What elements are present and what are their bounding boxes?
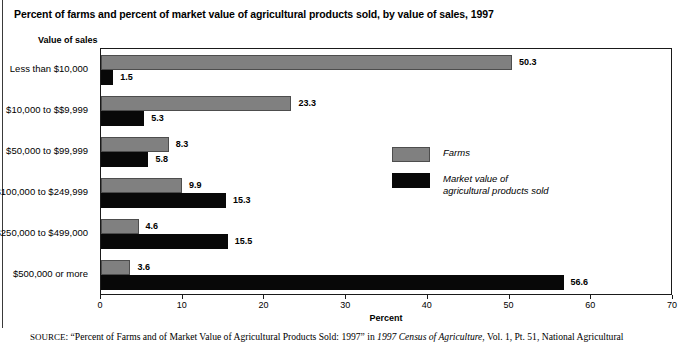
source-quoted-title: “Percent of Farms and of Market Value of… — [71, 331, 365, 342]
legend-entry-market-value: Market value of agricultural products so… — [392, 173, 549, 196]
bar-farms — [101, 55, 512, 70]
chart-title: Percent of farms and percent of market v… — [14, 8, 494, 20]
source-note: SOURCE: “Percent of Farms and of Market … — [30, 331, 680, 343]
source-prefix: SOURCE — [30, 332, 66, 342]
y-axis-category-label: $50,000 to $99,999 — [0, 145, 95, 156]
bar-market-value — [101, 70, 113, 85]
source-publication: 1997 Census of Agriculture — [377, 331, 482, 342]
bar-value-market-value: 15.3 — [233, 193, 251, 208]
y-axis-category-label: $100,000 to $249,999 — [0, 186, 95, 197]
plot-frame: 50.31.523.35.38.35.89.915.34.615.53.656.… — [100, 48, 672, 295]
bar-value-farms: 23.3 — [298, 96, 316, 111]
x-axis-tick-label: 20 — [258, 300, 268, 310]
bar-value-market-value: 5.8 — [155, 152, 168, 167]
x-axis-tick-mark — [427, 295, 428, 299]
x-axis-tick-mark — [263, 295, 264, 299]
chart-page: Percent of farms and percent of market v… — [0, 0, 688, 350]
y-axis-category-labels: Less than $10,000$10,000 to $$9,999$50,0… — [0, 48, 95, 295]
legend-entry-farms: Farms — [392, 147, 470, 162]
bar-market-value — [101, 193, 226, 208]
x-axis-title: Percent — [100, 313, 672, 323]
x-axis-tick-mark — [590, 295, 591, 299]
bar-farms — [101, 260, 130, 275]
bar-value-market-value: 56.6 — [571, 275, 589, 290]
bar-value-farms: 8.3 — [176, 137, 189, 152]
y-axis-category-label: $500,000 or more — [0, 268, 95, 279]
legend-label-farms: Farms — [443, 147, 470, 159]
y-axis-category-label: Less than $10,000 — [0, 63, 95, 74]
legend-label-market-value: Market value of agricultural products so… — [443, 173, 549, 196]
bar-market-value — [101, 152, 148, 167]
x-axis-tick-mark — [345, 295, 346, 299]
x-axis-tick-mark — [509, 295, 510, 299]
bar-market-value — [101, 234, 228, 249]
bar-farms — [101, 178, 182, 193]
source-tail: , Vol. 1, Pt. 51, National Agricultural — [482, 331, 623, 342]
x-axis-tick-mark — [182, 295, 183, 299]
bar-value-farms: 9.9 — [189, 178, 202, 193]
plot-area: 50.31.523.35.38.35.89.915.34.615.53.656.… — [101, 49, 671, 294]
x-axis-tick-label: 70 — [667, 300, 677, 310]
x-axis-tick-label: 30 — [340, 300, 350, 310]
bar-value-farms: 4.6 — [146, 219, 159, 234]
x-axis-tick-mark — [672, 295, 673, 299]
bar-value-market-value: 15.5 — [235, 234, 253, 249]
bar-farms — [101, 219, 139, 234]
y-axis-category-label: $10,000 to $$9,999 — [0, 104, 95, 115]
x-axis-tick-label: 40 — [422, 300, 432, 310]
source-connector: in — [365, 331, 377, 342]
bar-farms — [101, 137, 169, 152]
legend-swatch-farms-icon — [392, 147, 430, 162]
bar-value-farms: 3.6 — [137, 260, 150, 275]
legend-swatch-market-value-icon — [392, 173, 430, 188]
y-axis-header: Value of sales — [38, 35, 98, 45]
y-axis-category-label: $250,000 to $499,000 — [0, 227, 95, 238]
x-axis-tick-mark — [100, 295, 101, 299]
x-axis-tick-label: 60 — [585, 300, 595, 310]
bar-value-market-value: 1.5 — [120, 70, 133, 85]
bar-market-value — [101, 111, 144, 126]
x-axis-tick-label: 0 — [97, 300, 102, 310]
bar-farms — [101, 96, 291, 111]
bar-value-market-value: 5.3 — [151, 111, 164, 126]
bar-value-farms: 50.3 — [519, 55, 537, 70]
x-axis-tick-label: 50 — [504, 300, 514, 310]
x-axis-tick-label: 10 — [177, 300, 187, 310]
bar-market-value — [101, 275, 564, 290]
